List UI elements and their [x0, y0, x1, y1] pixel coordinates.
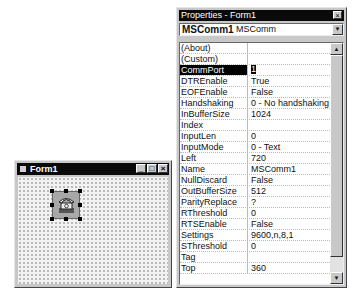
property-row[interactable]: (Custom): [180, 54, 332, 65]
property-row-selected[interactable]: CommPort1: [180, 65, 332, 76]
property-row[interactable]: Settings9600,n,8,1: [180, 230, 332, 241]
resize-handle-nw[interactable]: [50, 189, 54, 193]
property-row[interactable]: Index: [180, 120, 332, 131]
property-value-input[interactable]: 1: [251, 65, 256, 74]
close-button[interactable]: ×: [333, 11, 342, 19]
property-row[interactable]: (About): [180, 43, 332, 54]
property-row[interactable]: Top360: [180, 263, 332, 274]
property-row[interactable]: Handshaking0 - No handshaking: [180, 98, 332, 109]
property-row[interactable]: InputMode0 - Text: [180, 142, 332, 153]
properties-title: Properties - Form1: [181, 10, 256, 21]
property-row[interactable]: ParityReplace?: [180, 197, 332, 208]
vertical-scrollbar[interactable]: ▲ ▼: [330, 43, 343, 284]
resize-handle-se[interactable]: [78, 217, 82, 221]
resize-handle-ne[interactable]: [78, 189, 82, 193]
resize-handle-n[interactable]: [64, 189, 68, 193]
property-row[interactable]: RTSEnableFalse: [180, 219, 332, 230]
chevron-down-icon[interactable]: ▼: [332, 24, 343, 35]
scroll-down-button[interactable]: ▼: [330, 272, 343, 284]
maximize-button[interactable]: □: [147, 164, 157, 173]
property-row[interactable]: Tag: [180, 252, 332, 263]
properties-window: Properties - Form1 × MSComm1 MSComm ▼ (A…: [176, 7, 347, 288]
property-row[interactable]: InputLen0: [180, 131, 332, 142]
form-icon: [20, 166, 26, 172]
scroll-up-button[interactable]: ▲: [330, 43, 343, 55]
property-row[interactable]: SThreshold0: [180, 241, 332, 252]
form-design-surface[interactable]: [18, 177, 168, 284]
property-row[interactable]: NameMSComm1: [180, 164, 332, 175]
property-row[interactable]: EOFEnableFalse: [180, 87, 332, 98]
resize-handle-w[interactable]: [50, 203, 54, 207]
property-row[interactable]: NullDiscardFalse: [180, 175, 332, 186]
property-row[interactable]: InBufferSize1024: [180, 109, 332, 120]
resize-handle-s[interactable]: [64, 217, 68, 221]
property-row[interactable]: Left720: [180, 153, 332, 164]
object-name: MSComm1: [182, 24, 234, 35]
form1-title: Form1: [30, 163, 58, 175]
telephone-icon: [58, 196, 75, 214]
form1-title-bar[interactable]: Form1 _ □ ×: [17, 163, 169, 175]
property-row[interactable]: DTREnableTrue: [180, 76, 332, 87]
object-type: MSComm: [236, 24, 276, 35]
mscomm-control[interactable]: [52, 191, 80, 219]
property-row[interactable]: RThreshold0: [180, 208, 332, 219]
property-grid: (About) (Custom) CommPort1 DTREnableTrue…: [179, 42, 344, 285]
property-row[interactable]: OutBufferSize512: [180, 186, 332, 197]
minimize-button[interactable]: _: [136, 164, 146, 173]
scroll-thumb[interactable]: [330, 55, 343, 257]
object-selector-dropdown[interactable]: MSComm1 MSComm ▼: [179, 23, 344, 36]
resize-handle-e[interactable]: [78, 203, 82, 207]
resize-handle-sw[interactable]: [50, 217, 54, 221]
form1-window: Form1 _ □ ×: [14, 160, 172, 288]
close-button[interactable]: ×: [158, 164, 168, 173]
properties-title-bar[interactable]: Properties - Form1 ×: [179, 10, 344, 21]
